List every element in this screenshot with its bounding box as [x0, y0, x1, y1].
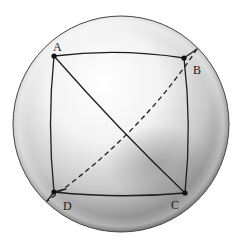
- vertex-b-label: B: [193, 63, 201, 77]
- vertex-d-label: D: [63, 199, 72, 213]
- vertex-a-dot: [51, 53, 56, 58]
- vertex-c-label: C: [171, 198, 179, 212]
- vertex-b-dot: [181, 55, 186, 60]
- vertex-d-dot: [51, 189, 56, 194]
- vertex-c-dot: [182, 190, 187, 195]
- spherical-quadrilateral-figure: A B C D: [0, 0, 242, 243]
- sphere: [13, 16, 229, 232]
- vertex-a-label: A: [53, 40, 62, 54]
